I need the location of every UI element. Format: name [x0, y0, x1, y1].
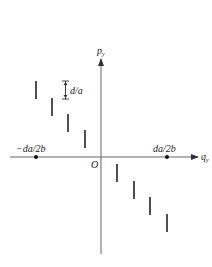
- y-axis-label: py: [96, 45, 105, 57]
- phase-space-diagram: py qy O d/a −da/2b da/2b: [0, 0, 212, 267]
- origin-label: O: [91, 159, 98, 170]
- right-point: [165, 155, 169, 159]
- right-segments: [117, 164, 167, 232]
- left-point: [34, 155, 38, 159]
- x-axis-label: qy: [201, 151, 209, 163]
- bracket-label: d/a: [70, 85, 83, 96]
- right-point-label: da/2b: [153, 143, 176, 154]
- d-over-a-bracket: [62, 81, 69, 99]
- left-point-label: −da/2b: [16, 143, 46, 154]
